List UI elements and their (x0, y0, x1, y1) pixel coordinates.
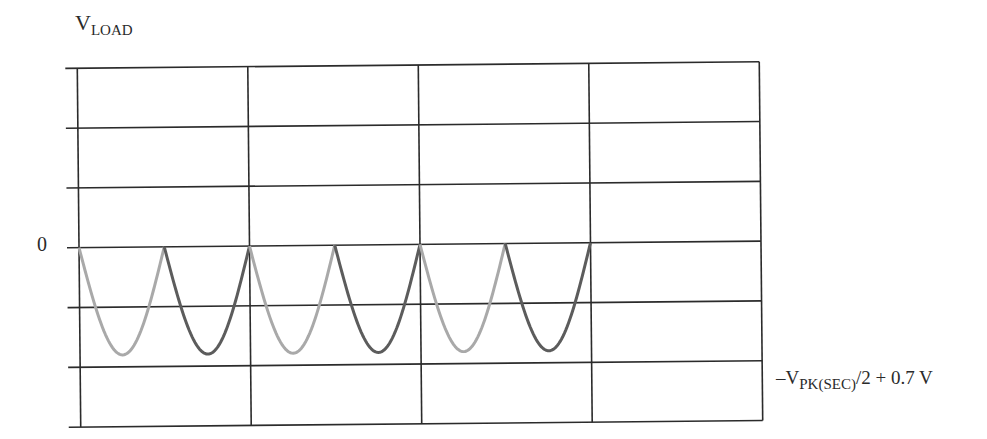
zero-line (67, 241, 761, 248)
grid-line-horizontal (68, 301, 762, 308)
waveform-pulse (250, 245, 336, 353)
grid-lines (65, 62, 762, 427)
grid-line-horizontal (65, 62, 759, 69)
waveform-pulse (79, 247, 165, 355)
waveform-pulse (505, 243, 591, 351)
waveform-pulse (335, 244, 421, 352)
grid-line-horizontal (68, 361, 762, 368)
waveform-pulse (164, 246, 250, 354)
grid-line-horizontal (69, 421, 763, 428)
y-axis-label: VLOAD (75, 10, 133, 36)
minimum-level-label: –VPK(SEC)/2 + 0.7 V (776, 367, 933, 389)
zero-level-label: 0 (37, 233, 47, 256)
grid-line-horizontal (66, 181, 760, 188)
waveform-pulse (420, 244, 506, 352)
grid-line-horizontal (66, 122, 760, 129)
waveform (79, 243, 592, 356)
